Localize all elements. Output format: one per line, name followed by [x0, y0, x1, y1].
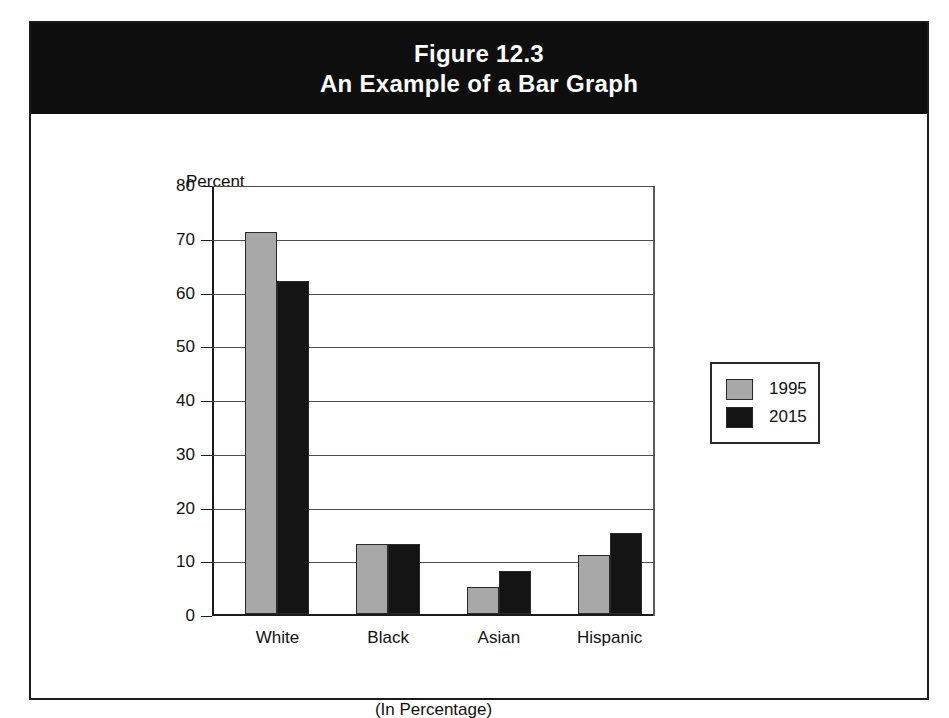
bar-group — [356, 186, 420, 614]
y-axis-tick — [201, 562, 212, 563]
bar-group — [245, 186, 309, 614]
y-axis-tick-label: 60 — [176, 284, 195, 304]
legend-item: 1995 — [726, 375, 818, 403]
bar — [610, 533, 642, 614]
y-axis-tick — [201, 401, 212, 402]
category-label: White — [256, 628, 299, 648]
y-axis-tick-label: 10 — [176, 552, 195, 572]
y-axis-tick — [201, 347, 212, 348]
legend-item: 2015 — [726, 403, 818, 431]
legend-swatch-2015 — [726, 407, 753, 428]
plot-area: 01020304050607080 WhiteBlackAsianHispani… — [212, 186, 655, 616]
y-axis-tick-label: 50 — [176, 337, 195, 357]
figure-title-band: Figure 12.3 An Example of a Bar Graph — [31, 23, 927, 114]
y-axis-tick — [201, 616, 212, 617]
legend-label-2015: 2015 — [769, 407, 807, 427]
bar — [467, 587, 499, 614]
legend-label-1995: 1995 — [769, 379, 807, 399]
category-label: Black — [367, 628, 409, 648]
x-axis-title: (In Percentage) — [212, 700, 655, 718]
y-axis-tick-label: 40 — [176, 391, 195, 411]
y-axis-tick-label: 20 — [176, 499, 195, 519]
bar — [388, 544, 420, 614]
y-axis-tick — [201, 455, 212, 456]
bar — [499, 571, 531, 614]
bar — [245, 232, 277, 614]
category-label: Hispanic — [577, 628, 642, 648]
bar-group — [467, 186, 531, 614]
chart-area: Percent 01020304050607080 WhiteBlackAsia… — [31, 114, 927, 698]
category-label: Asian — [478, 628, 521, 648]
y-axis-tick-label: 0 — [186, 606, 195, 626]
x-axis-line — [212, 614, 655, 616]
bar — [578, 555, 610, 614]
y-axis-tick-label: 80 — [176, 176, 195, 196]
y-axis-tick — [201, 294, 212, 295]
y-axis-tick — [201, 240, 212, 241]
bar — [356, 544, 388, 614]
legend-swatch-1995 — [726, 379, 753, 400]
y-axis-tick-label: 30 — [176, 445, 195, 465]
figure-title: An Example of a Bar Graph — [320, 69, 638, 99]
figure-frame: Figure 12.3 An Example of a Bar Graph Pe… — [29, 21, 929, 700]
y-axis-tick-label: 70 — [176, 230, 195, 250]
y-axis-tick — [201, 509, 212, 510]
y-axis-tick — [201, 186, 212, 187]
chart-legend: 1995 2015 — [710, 362, 820, 444]
bar — [277, 281, 309, 614]
figure-number: Figure 12.3 — [414, 39, 544, 69]
bar-group — [578, 186, 642, 614]
